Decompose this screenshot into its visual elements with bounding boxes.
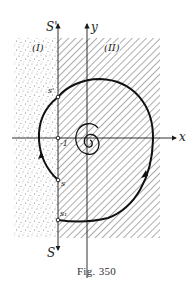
point-s1-label: s₁ <box>60 210 67 218</box>
s-axis-label: S <box>47 247 55 259</box>
point-s1 <box>56 218 60 222</box>
phase-portrait-diagram <box>0 0 193 289</box>
point-s-label: s <box>61 180 65 188</box>
point-s-prime <box>56 95 60 99</box>
s-prime-axis-label: S' <box>46 21 58 33</box>
x-axis-label: x <box>179 131 186 143</box>
y-axis-label: y <box>91 21 98 33</box>
figure-caption: Fig. 350 <box>0 265 193 277</box>
point-s-prime-label: s' <box>48 87 54 95</box>
point-minus-one-label: -1 <box>60 140 68 148</box>
point-s <box>56 178 60 182</box>
region-ii-label: (II) <box>104 43 120 53</box>
region-i-label: (I) <box>32 43 44 53</box>
